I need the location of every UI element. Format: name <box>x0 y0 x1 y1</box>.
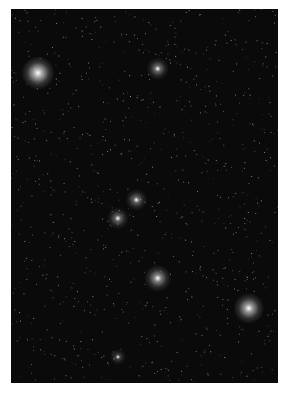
star-top-center <box>146 57 170 81</box>
bright-star-top-left <box>21 56 55 90</box>
nebula-core <box>144 265 172 293</box>
starfield-photo: Night sky star field <box>11 9 278 383</box>
